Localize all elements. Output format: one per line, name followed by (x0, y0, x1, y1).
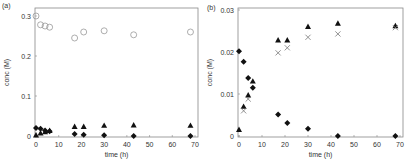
y-axis-label: conc (M) (206, 59, 214, 86)
data-point (72, 124, 78, 129)
y-tick-label: 0.03 (220, 7, 234, 14)
y-tick-label: 0.1 (21, 93, 31, 100)
y-tick-label: 0.2 (21, 53, 31, 60)
series-filled-diamond (236, 48, 398, 139)
panel-label: (b) (207, 4, 216, 12)
chart-panel-a: (a)01020304050607000.10.20.3time (h)conc… (2, 2, 199, 159)
data-point (250, 85, 256, 91)
data-point (335, 133, 341, 139)
data-point (236, 127, 242, 132)
data-point (241, 103, 247, 108)
plot-frame (238, 8, 403, 137)
x-tick-label: 30 (304, 141, 312, 148)
data-point (101, 28, 107, 34)
x-tick-label: 60 (373, 141, 381, 148)
x-tick-label: 50 (350, 141, 358, 148)
data-point (187, 29, 193, 35)
chart-figure: (a)01020304050607000.10.20.3time (h)conc… (0, 0, 411, 163)
y-tick-label: 0.01 (220, 91, 234, 98)
data-point (284, 120, 290, 126)
data-point (81, 29, 87, 35)
data-point (187, 122, 193, 127)
y-tick-label: 0.02 (220, 49, 234, 56)
y-axis-label: conc (M) (3, 59, 11, 86)
x-tick-label: 10 (258, 141, 266, 148)
data-point (250, 78, 256, 83)
x-tick-label: 0 (237, 141, 241, 148)
x-tick-label: 70 (191, 141, 199, 148)
series-filled-triangle (33, 122, 193, 137)
data-point (275, 112, 281, 118)
data-point (305, 126, 311, 132)
y-tick-label: 0.3 (21, 13, 31, 20)
data-point (72, 35, 78, 41)
data-point (81, 124, 87, 129)
x-tick-label: 30 (100, 141, 108, 148)
data-point (33, 125, 39, 131)
x-tick-label: 20 (78, 141, 86, 148)
data-point (392, 133, 398, 139)
data-point (187, 133, 193, 139)
series-cross (241, 25, 398, 113)
x-tick-label: 50 (146, 141, 154, 148)
x-tick-label: 70 (396, 141, 404, 148)
x-tick-label: 0 (34, 141, 38, 148)
data-point (131, 122, 137, 127)
data-point (335, 20, 341, 25)
data-point (131, 133, 137, 139)
data-point (241, 59, 247, 65)
x-tick-label: 60 (168, 141, 176, 148)
data-point (101, 122, 107, 127)
y-tick-label: 0 (27, 133, 31, 140)
x-tick-label: 40 (327, 141, 335, 148)
x-tick-label: 20 (281, 141, 289, 148)
data-point (305, 24, 311, 29)
data-point (131, 32, 137, 38)
y-tick-label: 0 (230, 133, 234, 140)
data-point (245, 75, 251, 81)
data-point (284, 37, 290, 42)
x-axis-label: time (h) (105, 151, 129, 159)
chart-panel-b: (b)01020304050607000.010.020.03time (h)c… (206, 4, 404, 159)
data-point (72, 131, 78, 137)
plot-frame (35, 8, 198, 137)
series-filled-triangle (236, 20, 398, 132)
data-point (236, 48, 242, 54)
data-point (275, 37, 281, 42)
x-tick-label: 40 (123, 141, 131, 148)
series-open-circle (33, 13, 193, 41)
panel-label: (a) (2, 2, 11, 10)
x-tick-label: 10 (55, 141, 63, 148)
x-axis-label: time (h) (309, 151, 333, 159)
